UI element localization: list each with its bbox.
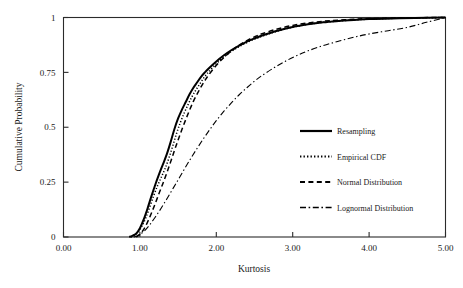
legend-label-3: Lognormal Distribution <box>337 204 413 213</box>
x-tick-label: 1.00 <box>132 243 148 253</box>
x-tick-label: 4.00 <box>361 243 377 253</box>
x-tick-label: 5.00 <box>438 243 454 253</box>
y-tick-label: 0.25 <box>40 177 56 187</box>
chart-figure: 0.001.002.003.004.005.00 00.250.50.751 R… <box>0 0 463 288</box>
legend-label-1: Empirical CDF <box>337 153 387 162</box>
y-axis-title: Cumulative Probability <box>14 82 24 171</box>
x-axis-tick-labels: 0.001.002.003.004.005.00 <box>56 243 454 253</box>
y-axis-tick-labels: 00.250.50.751 <box>40 13 56 243</box>
y-tick-label: 1 <box>51 13 56 23</box>
y-tick-label: 0.75 <box>40 68 56 78</box>
y-axis-ticks <box>64 18 69 238</box>
legend-label-0: Resampling <box>337 127 375 136</box>
x-tick-label: 0.00 <box>56 243 72 253</box>
cdf-plot: 0.001.002.003.004.005.00 00.250.50.751 R… <box>0 0 463 288</box>
y-tick-label: 0 <box>51 232 56 242</box>
x-axis-title: Kurtosis <box>238 264 271 274</box>
x-axis-ticks <box>64 232 446 237</box>
y-tick-label: 0.5 <box>44 122 56 132</box>
legend-label-2: Normal Distribution <box>337 178 402 187</box>
x-tick-label: 3.00 <box>285 243 301 253</box>
chart-legend: ResamplingEmpirical CDFNormal Distributi… <box>300 127 413 213</box>
x-tick-label: 2.00 <box>208 243 224 253</box>
